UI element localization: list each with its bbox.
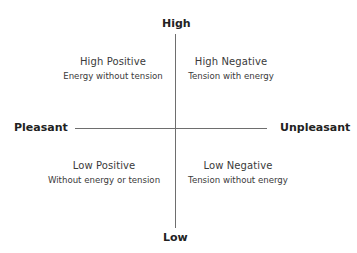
horizontal-axis-line xyxy=(75,128,267,129)
vertical-axis-line xyxy=(175,34,176,228)
quadrant-title: Low Negative xyxy=(179,160,297,172)
axis-label-unpleasant: Unpleasant xyxy=(280,122,350,134)
quadrant-subtitle: Tension with energy xyxy=(180,71,282,82)
quadrant-title: High Negative xyxy=(180,56,282,68)
axis-label-low: Low xyxy=(163,232,188,244)
affect-quadrant-diagram: High Low Pleasant Unpleasant High Positi… xyxy=(0,0,357,253)
quadrant-high-positive: High Positive Energy without tension xyxy=(55,56,171,82)
quadrant-title: High Positive xyxy=(55,56,171,68)
axis-label-pleasant: Pleasant xyxy=(14,122,68,134)
quadrant-low-positive: Low Positive Without energy or tension xyxy=(37,160,171,186)
quadrant-subtitle: Tension without energy xyxy=(179,175,297,186)
axis-label-high: High xyxy=(162,18,191,30)
quadrant-subtitle: Energy without tension xyxy=(55,71,171,82)
quadrant-title: Low Positive xyxy=(37,160,171,172)
quadrant-high-negative: High Negative Tension with energy xyxy=(180,56,282,82)
quadrant-subtitle: Without energy or tension xyxy=(37,175,171,186)
quadrant-low-negative: Low Negative Tension without energy xyxy=(179,160,297,186)
